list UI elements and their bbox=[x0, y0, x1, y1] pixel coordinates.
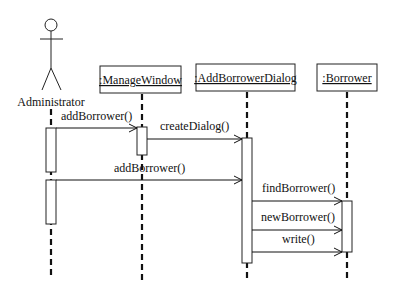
message-label: newBorrower() bbox=[261, 210, 335, 224]
stick-figure-icon bbox=[40, 19, 63, 90]
message-label: addBorrower() bbox=[61, 109, 132, 123]
actor-administrator: Administrator bbox=[17, 19, 84, 109]
activation-add-borrower-dialog bbox=[242, 138, 252, 263]
object-borrower: :Borrower bbox=[317, 64, 377, 91]
object-manage-window: :ManageWindow bbox=[99, 66, 182, 93]
sequence-diagram: Administrator :ManageWindow :AddBorrower… bbox=[0, 0, 398, 294]
object-add-borrower-dialog: :AddBorrowerDialog bbox=[194, 64, 297, 91]
message-label: findBorrower() bbox=[262, 181, 335, 195]
object-label: :AddBorrowerDialog bbox=[194, 71, 297, 85]
activation-borrower bbox=[342, 201, 352, 252]
message-label: createDialog() bbox=[160, 119, 229, 133]
activation-manage-window bbox=[137, 127, 147, 155]
actor-label: Administrator bbox=[17, 95, 84, 109]
activation-administrator-2 bbox=[46, 180, 56, 224]
object-label: :Borrower bbox=[322, 71, 371, 85]
activation-administrator-1 bbox=[46, 128, 56, 172]
object-label: :ManageWindow bbox=[99, 73, 182, 87]
message-label: write() bbox=[282, 232, 315, 246]
message-label: addBorrower() bbox=[114, 161, 185, 175]
